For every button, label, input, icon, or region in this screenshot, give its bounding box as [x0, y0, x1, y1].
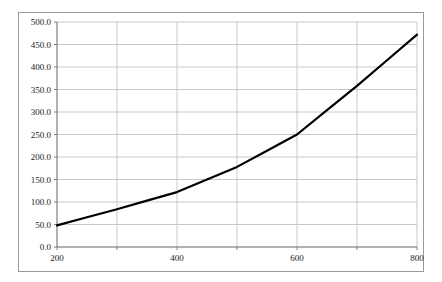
y-axis-tick-label: 450.0 — [0, 40, 51, 49]
y-axis-tick-label: 200.0 — [0, 153, 51, 162]
y-axis-tick-label: 0.0 — [0, 243, 51, 252]
y-axis-tick-label: 250.0 — [0, 130, 51, 139]
y-axis-tick-label: 500.0 — [0, 18, 51, 27]
chart-figure: 0.050.0100.0150.0200.0250.0300.0350.0400… — [0, 0, 442, 282]
chart-plot-area — [0, 0, 442, 282]
y-axis-tick-label: 350.0 — [0, 85, 51, 94]
x-axis-tick-label: 600 — [290, 254, 304, 263]
x-axis-tick-label: 800 — [410, 254, 424, 263]
y-axis-tick-label: 400.0 — [0, 63, 51, 72]
y-axis-tick-label: 50.0 — [0, 220, 51, 229]
y-axis-tick-label: 150.0 — [0, 175, 51, 184]
x-axis-tick-label: 200 — [50, 254, 64, 263]
axis-tick-marks — [54, 22, 417, 250]
y-axis-tick-label: 300.0 — [0, 108, 51, 117]
x-axis-tick-label: 400 — [170, 254, 184, 263]
y-axis-tick-label: 100.0 — [0, 198, 51, 207]
